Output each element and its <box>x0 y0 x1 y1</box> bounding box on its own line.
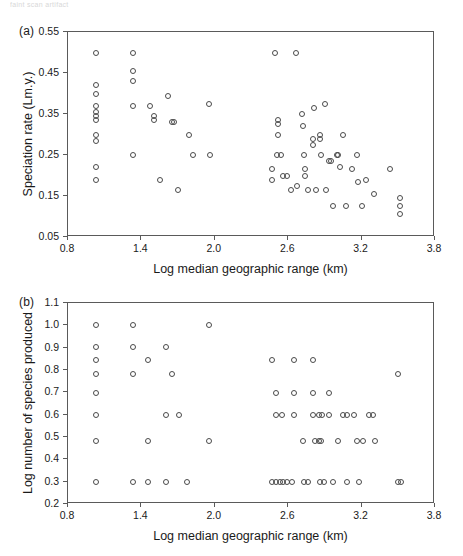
panel-a-y-tick-mark <box>63 72 67 73</box>
data-point <box>93 479 99 485</box>
data-point <box>269 177 275 183</box>
data-point <box>93 138 99 144</box>
panel-a-x-tick-mark <box>434 236 435 240</box>
panel-a-x-tick-mark <box>67 236 68 240</box>
panel-a-x-tick-mark <box>361 236 362 240</box>
data-point <box>93 322 99 328</box>
data-point <box>293 50 299 56</box>
panel-b-y-tick-label: 0.2 <box>29 497 59 509</box>
data-point <box>322 101 328 107</box>
panel-b-y-tick-mark <box>63 302 67 303</box>
data-point <box>130 50 136 56</box>
data-point <box>279 412 285 418</box>
data-point <box>397 195 403 201</box>
data-point <box>311 105 317 111</box>
data-point <box>335 438 341 444</box>
data-point <box>93 117 99 123</box>
data-point <box>163 344 169 350</box>
data-point <box>130 344 136 350</box>
panel-a-x-tick-label: 3.2 <box>341 242 381 254</box>
panel-b-x-tick-label: 3.8 <box>414 509 454 521</box>
data-point <box>337 164 343 170</box>
data-point <box>340 132 346 138</box>
data-point <box>272 50 278 56</box>
panel-a-x-tick-mark <box>287 236 288 240</box>
data-point <box>175 187 181 193</box>
data-point <box>273 390 279 396</box>
panel-a-y-tick-label: 0.05 <box>29 230 59 242</box>
data-point <box>397 211 403 217</box>
data-point <box>130 103 136 109</box>
data-point <box>275 121 281 127</box>
data-point <box>206 322 212 328</box>
data-point <box>328 158 334 164</box>
data-point <box>93 164 99 170</box>
panel-b-y-tick-mark <box>63 414 67 415</box>
data-point <box>344 479 350 485</box>
data-point <box>190 152 196 158</box>
data-point <box>310 142 316 148</box>
data-point <box>291 412 297 418</box>
data-point <box>206 438 212 444</box>
data-point <box>207 152 213 158</box>
panel-b-y-axis-label: Log number of species produced <box>21 311 35 493</box>
panel-b-x-tick-mark <box>140 503 141 507</box>
panel-b-x-tick-mark <box>214 503 215 507</box>
data-point <box>310 136 316 142</box>
data-point <box>130 322 136 328</box>
data-point <box>186 132 192 138</box>
data-point <box>163 479 169 485</box>
panel-a-x-tick-mark <box>214 236 215 240</box>
data-point <box>130 78 136 84</box>
data-point <box>93 82 99 88</box>
data-point <box>343 203 349 209</box>
panel-a-x-tick-label: 2.6 <box>267 242 307 254</box>
data-point <box>93 390 99 396</box>
data-point <box>299 111 305 117</box>
data-point <box>310 390 316 396</box>
data-point <box>273 412 279 418</box>
data-point <box>313 187 319 193</box>
data-point <box>344 412 350 418</box>
data-point <box>326 390 332 396</box>
panel-b-x-axis-label: Log median geographic range (km) <box>153 529 348 543</box>
data-point <box>130 479 136 485</box>
data-point <box>163 412 169 418</box>
data-point <box>93 371 99 377</box>
data-point <box>93 357 99 363</box>
data-point <box>269 166 275 172</box>
panel-b-x-tick-mark <box>287 503 288 507</box>
data-point <box>291 390 297 396</box>
panel-a-x-axis-label: Log median geographic range (km) <box>153 262 348 276</box>
data-point <box>302 166 308 172</box>
data-point <box>130 152 136 158</box>
panel-b-y-tick-mark <box>63 369 67 370</box>
data-point <box>301 152 307 158</box>
data-point <box>363 177 369 183</box>
panel-b-x-tick-label: 2.6 <box>267 509 307 521</box>
panel-b-y-tick-mark <box>63 391 67 392</box>
data-point <box>93 132 99 138</box>
data-point <box>354 152 360 158</box>
panel-a-x-tick-label: 3.8 <box>414 242 454 254</box>
data-point <box>130 371 136 377</box>
data-point <box>157 177 163 183</box>
panel-b-x-tick-label: 2.0 <box>194 509 234 521</box>
scan-artifact-text: faint scan artifact <box>10 1 118 8</box>
data-point <box>371 191 377 197</box>
data-point <box>317 136 323 142</box>
data-point <box>330 203 336 209</box>
data-point <box>176 412 182 418</box>
data-point <box>288 187 294 193</box>
panel-b-y-tick-mark <box>63 347 67 348</box>
data-point <box>310 412 316 418</box>
data-point <box>184 479 190 485</box>
panel-b-y-tick-mark <box>63 481 67 482</box>
data-point <box>359 203 365 209</box>
data-point <box>398 479 404 485</box>
data-point <box>318 438 324 444</box>
data-point <box>291 357 297 363</box>
data-point <box>318 152 324 158</box>
data-point <box>145 357 151 363</box>
panel-b-y-tick-mark <box>63 324 67 325</box>
